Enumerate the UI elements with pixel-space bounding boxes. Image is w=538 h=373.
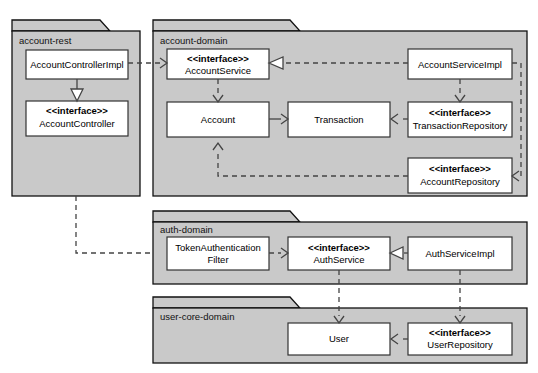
class-label-user-repository: UserRepository [427,339,493,350]
package-auth-domain[interactable]: auth-domain TokenAuthentication Filter <… [153,211,527,284]
package-label-user-core-domain: user-core-domain [160,311,234,322]
uml-package-diagram: account-rest AccountControllerImpl <<int… [0,0,538,373]
stereotype-user-repository: <<interface>> [429,327,491,338]
class-label-account-service: AccountService [185,65,251,76]
class-label-transaction: Transaction [314,114,363,125]
package-tab-auth-domain [153,211,300,222]
package-tab-user-core-domain [153,297,300,308]
class-label-auth-service-impl: AuthServiceImpl [425,248,494,259]
class-label-transaction-repository: TransactionRepository [413,120,508,131]
package-account-rest[interactable]: account-rest AccountControllerImpl <<int… [12,20,140,196]
package-label-account-domain: account-domain [160,35,228,46]
package-tab-account-rest [12,20,110,31]
class-label-token-filter-line1: TokenAuthentication [175,242,261,253]
stereotype-account-service: <<interface>> [187,53,249,64]
class-label-account-repository: AccountRepository [420,176,500,187]
package-tab-account-domain [153,20,300,31]
stereotype-account-controller: <<interface>> [46,105,108,116]
stereotype-auth-service: <<interface>> [308,242,370,253]
package-label-account-rest: account-rest [19,35,72,46]
stereotype-transaction-repository: <<interface>> [429,107,491,118]
package-account-domain[interactable]: account-domain <<interface>> AccountServ… [153,20,527,196]
class-label-auth-service: AuthService [313,254,364,265]
class-label-token-filter-line2: Filter [207,254,228,265]
class-label-user: User [329,333,349,344]
class-label-account-service-impl: AccountServiceImpl [418,59,502,70]
class-label-account: Account [201,114,236,125]
package-label-auth-domain: auth-domain [160,224,213,235]
stereotype-account-repository: <<interface>> [429,163,491,174]
class-label-account-controller-impl: AccountControllerImpl [30,59,123,70]
class-label-account-controller: AccountController [39,118,115,129]
